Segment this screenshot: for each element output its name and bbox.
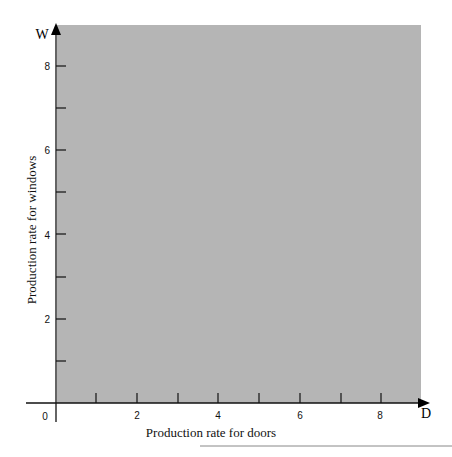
origin-label: 0 bbox=[42, 411, 48, 422]
svg-text:4: 4 bbox=[215, 410, 221, 421]
x-axis-letter: D bbox=[421, 406, 431, 421]
svg-text:4: 4 bbox=[44, 230, 50, 241]
production-chart: 0 2 4 6 8 2 4 6 8 W D Production rate fo… bbox=[0, 0, 452, 457]
svg-text:2: 2 bbox=[44, 314, 50, 325]
svg-text:6: 6 bbox=[44, 145, 50, 156]
svg-text:6: 6 bbox=[297, 410, 303, 421]
svg-text:2: 2 bbox=[134, 410, 140, 421]
y-axis-letter: W bbox=[35, 27, 49, 42]
feasible-region bbox=[57, 25, 421, 403]
y-axis-title: Production rate for windows bbox=[24, 156, 39, 304]
svg-text:8: 8 bbox=[377, 410, 383, 421]
x-axis-title: Production rate for doors bbox=[146, 425, 276, 440]
svg-text:8: 8 bbox=[44, 61, 50, 72]
